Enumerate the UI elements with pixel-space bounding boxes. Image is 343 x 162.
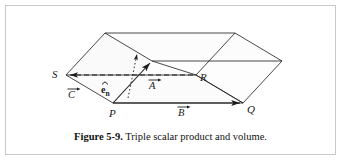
- vector-b-overbar: [177, 105, 191, 109]
- point-label-s: S: [52, 69, 58, 80]
- vector-label-a: A: [149, 81, 155, 92]
- point-label-q: Q: [247, 104, 255, 115]
- figure-caption: Figure 5-9. Triple scalar product and vo…: [5, 131, 336, 144]
- vector-label-b: B: [178, 108, 184, 119]
- figure-page: S P Q R A B C: [0, 0, 343, 162]
- caption-title: Triple scalar product and volume.: [125, 131, 267, 142]
- vector-c-overbar: [67, 87, 81, 91]
- vector-a-overbar: [148, 78, 162, 82]
- vector-label-c: C: [68, 90, 75, 101]
- point-label-p: P: [109, 108, 116, 119]
- unit-normal-subscript: n: [105, 89, 109, 98]
- caption-number: Figure 5-9.: [74, 131, 123, 142]
- unit-normal-label: en: [101, 84, 110, 98]
- point-label-r: R: [200, 72, 207, 83]
- unit-normal-hat: [100, 81, 112, 85]
